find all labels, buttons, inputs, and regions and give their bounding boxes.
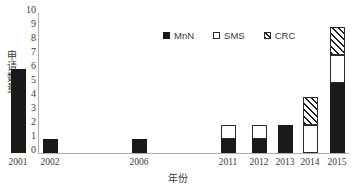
bar-segment-mnn: [43, 139, 58, 153]
x-tick-label-2006: 2006: [130, 157, 149, 168]
x-tick-label-2014: 2014: [301, 157, 320, 168]
bar-segment-mnn: [221, 139, 236, 153]
x-axis-tick-labels: 20012002200620112012201320142015: [38, 155, 349, 171]
bar-segment-sms: [252, 125, 267, 139]
bar-segment-mnn: [252, 139, 267, 153]
bar-2014[interactable]: [303, 13, 318, 153]
filled-square-icon: [163, 32, 170, 39]
x-tick-label-2012: 2012: [250, 157, 269, 168]
bar-segment-mnn: [11, 69, 26, 153]
bar-2002[interactable]: [43, 13, 58, 153]
legend-label: CRC: [275, 30, 296, 41]
legend-label: MnN: [174, 30, 194, 41]
legend-item-mnn[interactable]: MnN: [163, 30, 194, 41]
legend-item-crc[interactable]: CRC: [264, 30, 296, 41]
bar-segment-crc: [303, 97, 318, 125]
chart-legend: MnNSMSCRC: [163, 30, 295, 41]
bar-segment-mnn: [278, 125, 293, 153]
empty-square-icon: [213, 32, 220, 39]
legend-label: SMS: [224, 30, 245, 41]
chart-container: 申请数量 109876543210 2001200220062011201220…: [0, 0, 355, 188]
bar-segment-mnn: [330, 83, 345, 153]
bar-segment-sms: [330, 55, 345, 83]
x-axis-title: 年份: [0, 170, 355, 185]
hatched-square-icon: [264, 32, 271, 39]
x-tick-label-2013: 2013: [276, 157, 295, 168]
x-tick-label-2001: 2001: [9, 157, 28, 168]
x-axis-line: [38, 153, 349, 154]
bar-2006[interactable]: [132, 13, 147, 153]
bar-2015[interactable]: [330, 13, 345, 153]
x-tick-label-2011: 2011: [219, 157, 238, 168]
x-tick-label-2002: 2002: [41, 157, 60, 168]
bar-segment-sms: [221, 125, 236, 139]
bar-segment-mnn: [132, 139, 147, 153]
x-tick-label-2015: 2015: [328, 157, 347, 168]
bar-2001[interactable]: [11, 13, 26, 153]
bar-segment-sms: [303, 125, 318, 153]
legend-item-sms[interactable]: SMS: [213, 30, 245, 41]
bar-segment-crc: [330, 27, 345, 55]
